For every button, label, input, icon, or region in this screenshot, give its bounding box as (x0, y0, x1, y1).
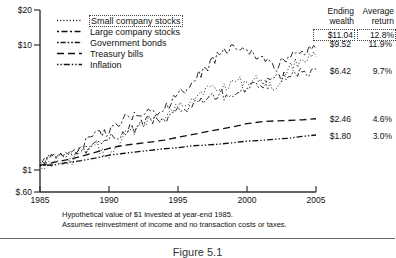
legend-label-small-company-stocks: Small company stocks (89, 15, 183, 27)
legend-key-dash-dot-icon (57, 38, 82, 47)
ending-wealth-government-bonds: $6.42 (313, 66, 351, 76)
x-tick-label-2005: 2005 (296, 195, 336, 205)
legend-item-large-company-stocks: Large company stocks (57, 26, 184, 37)
legend-item-small-company-stocks: Small company stocks (57, 15, 184, 26)
legend-item-government-bonds: Government bonds (57, 37, 184, 48)
legend-label-inflation: Inflation (88, 60, 124, 70)
legend-label-treasury-bills: Treasury bills (88, 49, 145, 59)
x-tick-label-2000: 2000 (227, 195, 267, 205)
x-tick-label-1985: 1985 (20, 195, 60, 205)
x-tick-label-1995: 1995 (158, 195, 198, 205)
series-line-government-bonds (40, 68, 316, 166)
average-return-inflation: 3.0% (357, 131, 392, 141)
y-tick-label-1: $1 (0, 165, 32, 175)
ending-wealth-inflation: $1.80 (313, 131, 351, 141)
y-tick-label-10: $10 (0, 40, 32, 50)
column-header-average-return: Average return (354, 7, 394, 26)
legend-key-dash-dot-dot-icon (57, 60, 82, 69)
legend-label-large-company-stocks: Large company stocks (88, 27, 182, 37)
x-tick-label-1990: 1990 (89, 195, 129, 205)
chart-caption-line1: Hypothetical value of $1 invested at yea… (62, 210, 287, 220)
chart-caption: Hypothetical value of $1 invested at yea… (62, 210, 287, 229)
figure-divider-rule (0, 238, 395, 239)
average-return-large-company-stocks: 11.9% (357, 39, 392, 49)
legend-item-inflation: Inflation (57, 59, 184, 70)
ending-wealth-large-company-stocks: $9.52 (313, 39, 351, 49)
chart-caption-line2: Assumes reinvestment of income and no tr… (62, 220, 287, 230)
chart-legend: Small company stocks Large company stock… (57, 15, 184, 70)
legend-label-government-bonds: Government bonds (88, 38, 169, 48)
column-header-ending-wealth-line2: wealth (312, 17, 354, 27)
legend-key-dash-dash-icon (57, 27, 82, 36)
legend-key-dotted-icon (57, 16, 82, 25)
column-header-average-return-line2: return (354, 17, 394, 27)
legend-item-treasury-bills: Treasury bills (57, 48, 184, 59)
y-tick-label-20: $20 (0, 5, 32, 15)
column-header-ending-wealth: Ending wealth (312, 7, 354, 26)
average-return-government-bonds: 9.7% (357, 66, 392, 76)
ending-wealth-treasury-bills: $2.46 (313, 114, 351, 124)
figure-number-caption: Figure 5.1 (0, 246, 395, 258)
legend-key-long-dash-icon (57, 49, 82, 58)
average-return-treasury-bills: 4.6% (357, 114, 392, 124)
series-line-treasury-bills (40, 119, 316, 166)
